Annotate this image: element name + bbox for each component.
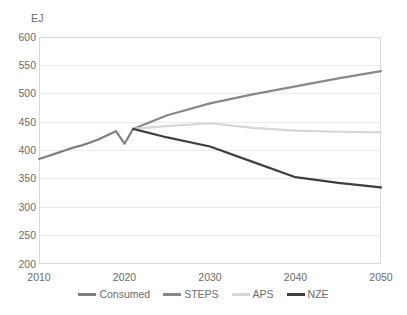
legend-item-aps[interactable]: APS <box>232 289 274 300</box>
legend-label: NZE <box>308 289 329 300</box>
legend-swatch-icon <box>163 293 181 296</box>
line-chart: EJ 600550500450400350300250200 201020202… <box>0 0 407 315</box>
legend-swatch-icon <box>78 293 96 296</box>
legend-label: Consumed <box>99 289 150 300</box>
x-axis-tick-2050: 2050 <box>360 272 402 283</box>
legend-swatch-icon <box>232 293 250 296</box>
x-axis-tick-2030: 2030 <box>189 272 231 283</box>
x-axis-tick-labels: 20102020203020402050 <box>0 0 407 315</box>
chart-legend: ConsumedSTEPSAPSNZE <box>0 289 407 300</box>
legend-item-steps[interactable]: STEPS <box>163 289 218 300</box>
legend-item-nze[interactable]: NZE <box>287 289 329 300</box>
legend-item-consumed[interactable]: Consumed <box>78 289 150 300</box>
x-axis-tick-2010: 2010 <box>18 272 60 283</box>
legend-swatch-icon <box>287 293 305 296</box>
x-axis-tick-2040: 2040 <box>275 272 317 283</box>
legend-label: APS <box>253 289 274 300</box>
x-axis-tick-2020: 2020 <box>104 272 146 283</box>
legend-label: STEPS <box>184 289 218 300</box>
